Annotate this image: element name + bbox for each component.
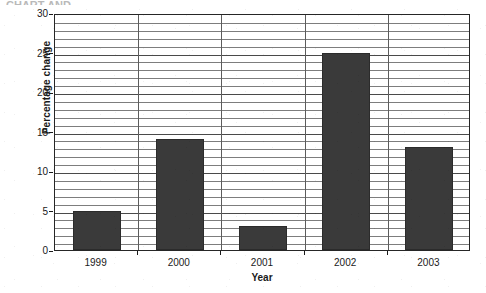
gridline-minor [55,86,469,87]
gridline-minor [55,118,469,119]
gridline-minor [55,47,469,48]
gridline-minor [55,78,469,79]
category-divider [305,15,306,250]
cropped-heading-artifact: CHART AND [6,0,126,5]
bar [156,139,204,250]
x-tick-mark [304,251,305,255]
bar [405,147,453,250]
y-tick-label: 20 [26,88,48,98]
y-tick-mark [49,132,53,133]
category-divider [221,15,222,250]
gridline-minor [55,126,469,127]
x-tick-mark [220,251,221,255]
bar-chart-figure: CHART AND Percentage change 051015202530… [0,0,486,293]
gridline-major [55,134,469,135]
y-tick-mark [49,251,53,252]
y-tick-label: 30 [26,9,48,19]
y-tick-label: 25 [26,49,48,59]
x-tick-label: 2003 [387,258,470,268]
bar [239,226,287,250]
gridline-minor [55,110,469,111]
x-tick-label: 2000 [137,258,220,268]
y-tick-mark [49,172,53,173]
bar [322,53,370,251]
gridline-minor [55,31,469,32]
bar [73,211,121,251]
x-tick-label: 2001 [220,258,303,268]
category-divider [388,15,389,250]
gridline-minor [55,39,469,40]
gridline-major [55,94,469,95]
gridline-minor [55,102,469,103]
gridline-minor [55,141,469,142]
y-tick-mark [49,53,53,54]
gridline-minor [55,23,469,24]
y-tick-mark [49,14,53,15]
category-divider [138,15,139,250]
x-axis-title: Year [54,272,470,283]
x-axis-tick-labels: 19992000200120022003 [54,251,470,273]
y-tick-label: 10 [26,167,48,177]
gridline-major [55,55,469,56]
y-tick-mark [49,93,53,94]
x-tick-mark [387,251,388,255]
x-tick-label: 2002 [304,258,387,268]
x-tick-label: 1999 [54,258,137,268]
gridline-minor [55,70,469,71]
y-tick-label: 15 [26,128,48,138]
y-tick-label: 5 [26,207,48,217]
y-axis-tick-labels: 051015202530 [26,14,48,251]
gridline-minor [55,62,469,63]
x-tick-mark [137,251,138,255]
plot-area [54,14,470,251]
y-tick-label: 0 [26,246,48,256]
y-tick-mark [49,211,53,212]
